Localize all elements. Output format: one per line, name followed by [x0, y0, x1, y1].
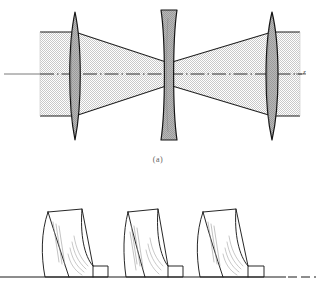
panel-a-ray-diagram — [0, 0, 316, 160]
perspective-lens-1 — [42, 209, 108, 277]
panel-b-perspective-lenses — [0, 174, 316, 284]
perspective-lens-2 — [124, 209, 183, 277]
lens-right-biconvex — [266, 12, 278, 140]
lens-left-biconvex — [70, 12, 81, 140]
perspective-lens-3 — [197, 209, 264, 277]
optics-figure: (a) z — [0, 0, 316, 284]
